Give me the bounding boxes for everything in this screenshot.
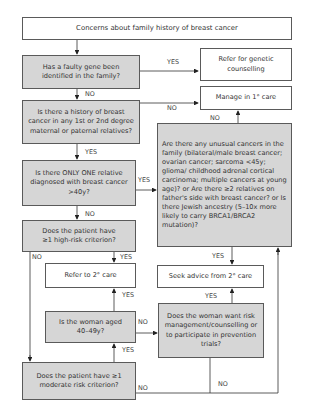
outcome-seek-advice-text: Seek advice from 2° care [169,272,252,281]
question-moderate-risk-text: Does the patient have ≥1 moderate risk c… [26,372,132,390]
edge-label-yes: YES [120,253,132,261]
edge-label-no: NO [167,104,177,112]
edge-label-yes: YES [138,176,150,184]
question-risk-management: Does the woman want risk management/coun… [158,303,264,358]
edge-label-no: NO [218,380,228,388]
start-box: Concerns about family history of breast … [22,17,292,40]
question-history-text: Is there a history of breast cancer in a… [26,108,136,135]
question-faulty-gene-text: Has a faulty gene been identified in the… [26,63,136,81]
edge-label-no: NO [85,210,95,218]
edge-label-no: NO [85,90,95,98]
outcome-manage-primary: Manage in 1° care [200,86,292,110]
question-high-risk: Does the patient have ≥1 high-risk crite… [22,220,136,252]
edge-label-no: NO [138,318,148,326]
edge-label-yes: YES [122,346,134,354]
question-moderate-risk: Does the patient have ≥1 moderate risk c… [22,362,136,400]
question-unusual-cancers: Are there any unusual cancers in the fam… [157,123,292,247]
edge-label-yes: YES [167,58,179,66]
edge-label-no: NO [210,114,220,122]
edge-label-no: NO [32,253,42,261]
outcome-seek-advice: Seek advice from 2° care [157,265,264,288]
outcome-refer-secondary-text: Refer to 2° care [64,271,116,280]
outcome-manage-primary-text: Manage in 1° care [216,93,276,102]
edge-label-no: NO [138,384,148,392]
start-text: Concerns about family history of breast … [76,24,238,34]
question-risk-management-text: Does the woman want risk management/coun… [162,312,260,348]
outcome-refer-genetic-text: Refer for genetic counselling [204,55,288,73]
question-high-risk-text: Does the patient have ≥1 high-risk crite… [26,227,132,245]
edge-label-yes: YES [212,252,224,260]
edge-label-yes: YES [85,148,97,156]
outcome-refer-secondary: Refer to 2° care [45,263,136,288]
question-faulty-gene: Has a faulty gene been identified in the… [22,55,140,89]
outcome-refer-genetic: Refer for genetic counselling [200,48,292,81]
question-aged-text: Is the woman aged 40–49y? [49,318,132,336]
edge-label-yes: YES [122,291,134,299]
question-aged: Is the woman aged 40–49y? [45,311,136,343]
question-history: Is there a history of breast cancer in a… [22,100,140,144]
question-only-one: Is there ONLY ONE relative diagnosed wit… [22,160,136,206]
question-unusual-cancers-text: Are there any unusual cancers in the fam… [162,140,287,231]
edge-label-yes: YES [205,292,217,300]
question-only-one-text: Is there ONLY ONE relative diagnosed wit… [26,169,132,196]
